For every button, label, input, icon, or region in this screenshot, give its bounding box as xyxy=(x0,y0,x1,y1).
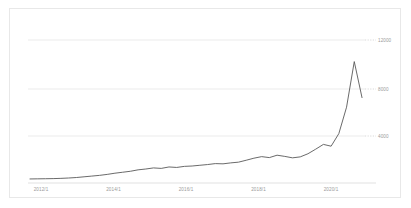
xtick-label-3: 2018/1 xyxy=(251,187,266,192)
xtick-label-0: 2012/1 xyxy=(34,187,49,192)
gridlines-group xyxy=(28,40,365,136)
xtick-label-2: 2016/1 xyxy=(179,187,194,192)
line-chart-svg: 12000 8000 4000 2012/1 2014/1 2016/1 201… xyxy=(10,9,402,199)
series-line-path xyxy=(30,62,362,179)
ytick-label-12000: 12000 xyxy=(378,38,392,43)
xaxis-labels: 2012/1 2014/1 2016/1 2018/1 2020/1 xyxy=(34,187,339,192)
chart-card: 12000 8000 4000 2012/1 2014/1 2016/1 201… xyxy=(9,8,401,198)
ytick-label-8000: 8000 xyxy=(378,87,389,92)
yaxis-labels: 12000 8000 4000 xyxy=(378,38,392,139)
ytick-label-4000: 4000 xyxy=(378,134,389,139)
chart-plot-area: 12000 8000 4000 2012/1 2014/1 2016/1 201… xyxy=(10,9,402,199)
xtick-label-4: 2020/1 xyxy=(324,187,339,192)
ytick-connector-group xyxy=(365,40,376,136)
xtick-label-1: 2014/1 xyxy=(106,187,121,192)
